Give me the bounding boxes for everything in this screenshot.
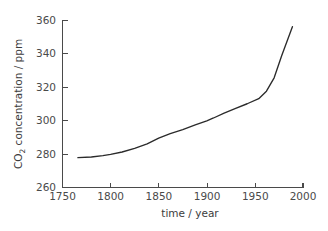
x-tick-label: 1750 (49, 190, 76, 202)
axis-spines (63, 20, 304, 188)
y-axis-title: CO2 concentration / ppm (12, 39, 27, 169)
co2-line-chart: 360 340 320 300 280 260 1750 1800 1850 1… (0, 0, 328, 231)
x-axis-title: time / year (161, 207, 219, 219)
x-tick-label: 1800 (97, 190, 124, 202)
data-series-line (78, 27, 293, 158)
x-tick-label: 2000 (290, 190, 317, 202)
y-axis-title-prefix: CO (12, 154, 24, 170)
y-tick-marks (63, 21, 68, 188)
x-tick-label: 1950 (242, 190, 269, 202)
x-tick-marks (63, 183, 304, 188)
y-tick-label: 280 (36, 148, 56, 160)
y-tick-label: 360 (36, 14, 56, 26)
y-axis-title-suffix: concentration / ppm (12, 39, 24, 149)
x-tick-label: 1900 (194, 190, 221, 202)
x-tick-label: 1850 (146, 190, 173, 202)
y-tick-label: 340 (36, 47, 56, 59)
y-tick-labels: 360 340 320 300 280 260 (36, 14, 56, 193)
chart-figure: 360 340 320 300 280 260 1750 1800 1850 1… (0, 0, 328, 231)
y-tick-label: 300 (36, 114, 56, 126)
y-tick-label: 320 (36, 81, 56, 93)
x-tick-labels: 1750 1800 1850 1900 1950 2000 (49, 190, 316, 202)
